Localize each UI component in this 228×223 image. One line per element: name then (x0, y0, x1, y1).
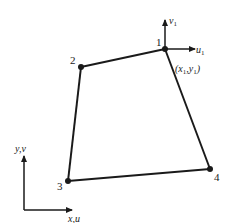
node-label-4: 4 (214, 171, 220, 183)
node-2 (78, 64, 84, 70)
node-4 (207, 166, 213, 172)
global-axes (24, 156, 72, 210)
node-label-1: 1 (156, 36, 162, 48)
edge-3-4 (68, 169, 210, 181)
element-diagram: 1 2 3 4 v1 u1 (x1,y1) y,v x,u (0, 0, 228, 223)
global-x-label: x,u (67, 213, 80, 223)
node-3 (65, 178, 71, 184)
global-y-label: y,v (14, 143, 26, 154)
node-label-3: 3 (57, 180, 63, 192)
node-1 (162, 46, 168, 52)
node-1-coordinates: (x1,y1) (175, 63, 201, 76)
edge-2-3 (68, 67, 81, 181)
edge-1-2 (81, 49, 165, 67)
node-label-2: 2 (70, 54, 76, 66)
u1-label: u1 (196, 44, 205, 57)
v1-label: v1 (169, 15, 177, 28)
